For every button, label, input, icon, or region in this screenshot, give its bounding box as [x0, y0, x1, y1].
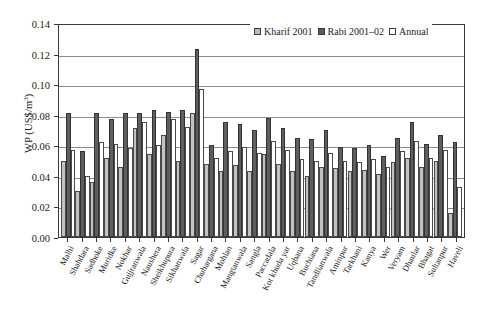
bar-group	[247, 25, 261, 237]
chart-figure: WP (US$/m3) 0.000.020.040.060.080.100.12…	[0, 0, 487, 313]
legend-entry-annual: Annual	[389, 26, 428, 37]
x-axis-label-slot: Veryam	[391, 243, 405, 313]
legend-swatch-kharif-icon	[254, 28, 261, 35]
y-axis-tick-label: 0.10	[32, 80, 50, 91]
bar-group	[290, 25, 304, 237]
legend-entry-rabi: Rabi 2001–02	[318, 26, 384, 37]
y-axis-tick-label: 0.02	[32, 202, 50, 213]
y-axis-tick-label: 0.06	[32, 141, 50, 152]
x-axis-labels: MalhiShahdaraSadhokeMuridkeNokharGujjran…	[58, 243, 465, 313]
x-axis-label-slot: Dhaular	[405, 243, 419, 313]
bar-group	[276, 25, 290, 237]
legend-label-annual: Annual	[399, 26, 428, 37]
bar-group	[104, 25, 118, 237]
x-axis-label-slot: Muridke	[103, 243, 117, 313]
bar-group	[262, 25, 276, 237]
bar-group	[75, 25, 89, 237]
bar-group	[176, 25, 190, 237]
x-axis-label-slot: Uqbana	[290, 243, 304, 313]
x-axis-label-slot: Tandlianwala	[319, 243, 333, 313]
x-axis-label-slot: Aminpur	[333, 243, 347, 313]
bar-group	[419, 25, 433, 237]
y-axis-tick-label: 0.12	[32, 49, 50, 60]
x-axis-label-slot: Kot khuda yar	[276, 243, 290, 313]
bar-group	[233, 25, 247, 237]
y-axis: 0.000.020.040.060.080.100.120.14	[0, 0, 58, 262]
x-axis-tick-label: Kanya	[359, 244, 378, 269]
x-axis-label-slot: Haveli	[449, 243, 463, 313]
legend-entry-kharif: Kharif 2001	[254, 26, 313, 37]
bar-group	[391, 25, 405, 237]
x-axis-label-slot: Mangtanwala	[233, 243, 247, 313]
x-axis-label-slot: Sadhoke	[89, 243, 103, 313]
y-axis-tick-label: 0.04	[32, 171, 50, 182]
y-axis-tick-label: 0.08	[32, 110, 50, 121]
x-axis-label-slot: Shahdara	[74, 243, 88, 313]
x-axis-label-slot: Chuhargana	[204, 243, 218, 313]
legend-swatch-annual-icon	[389, 28, 396, 35]
bar-group	[133, 25, 147, 237]
bar-group	[190, 25, 204, 237]
bar-group	[448, 25, 462, 237]
y-axis-tick-label: 0.00	[32, 233, 50, 244]
bar-group	[405, 25, 419, 237]
x-axis-label-slot: Bhagat	[420, 243, 434, 313]
x-axis-tick-label: Haveli	[445, 244, 465, 269]
bar-group	[348, 25, 362, 237]
bar-annual	[457, 187, 462, 237]
legend-swatch-rabi-icon	[318, 28, 325, 35]
plot-area	[58, 24, 465, 238]
bar-group	[305, 25, 319, 237]
bar-group	[118, 25, 132, 237]
bar-group	[376, 25, 390, 237]
bar-group	[147, 25, 161, 237]
legend-label-kharif: Kharif 2001	[264, 26, 313, 37]
bar-groups	[59, 25, 464, 237]
chart-legend: Kharif 2001 Rabi 2001–02 Annual	[250, 24, 432, 39]
x-axis-label-slot: Kanya	[362, 243, 376, 313]
bar-group	[434, 25, 448, 237]
x-axis-label-slot: Malhi	[60, 243, 74, 313]
bar-group	[319, 25, 333, 237]
y-axis-tick-label: 0.14	[32, 19, 50, 30]
bar-group	[161, 25, 175, 237]
legend-label-rabi: Rabi 2001–02	[328, 26, 384, 37]
bar-group	[219, 25, 233, 237]
bar-group	[333, 25, 347, 237]
x-axis-label-slot: Gujjranwala	[132, 243, 146, 313]
bar-group	[362, 25, 376, 237]
bar-group	[61, 25, 75, 237]
x-axis-label-slot: Sikhanwala	[175, 243, 189, 313]
bar-group	[204, 25, 218, 237]
x-axis-label-slot: Wer	[377, 243, 391, 313]
x-axis-label-slot: Tarkhani	[348, 243, 362, 313]
bar-group	[90, 25, 104, 237]
x-axis-label-slot: Sultanpur	[434, 243, 448, 313]
